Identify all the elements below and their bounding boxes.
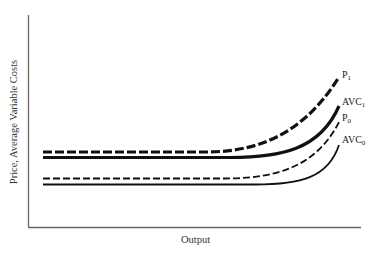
label-avc1-main: AVC <box>342 96 362 107</box>
curve-avc1 <box>43 106 339 158</box>
label-p0-sub: 0 <box>348 117 352 125</box>
label-p1: P1 <box>342 69 351 82</box>
label-avc1: AVC1 <box>342 96 365 109</box>
label-avc1-sub: 1 <box>362 101 366 109</box>
label-avc0-sub: 0 <box>362 139 366 147</box>
label-avc0-main: AVC <box>342 134 362 145</box>
chart-canvas <box>0 0 381 258</box>
curve-p1 <box>43 77 339 152</box>
x-axis-label: Output <box>0 234 381 245</box>
cost-curves-figure: Price, Average Variable Costs Output P1 … <box>0 0 381 258</box>
label-p0: P0 <box>342 112 351 125</box>
y-axis-label: Price, Average Variable Costs <box>8 60 19 184</box>
label-avc0: AVC0 <box>342 134 365 147</box>
label-p1-sub: 1 <box>348 74 352 82</box>
